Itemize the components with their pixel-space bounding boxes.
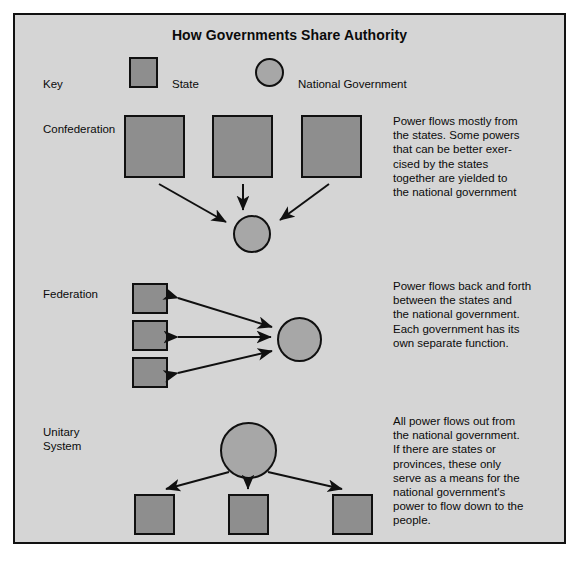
key-label: Key bbox=[43, 78, 63, 90]
key-national-label: National Government bbox=[298, 78, 407, 90]
diagram-stage: How Governments Share Authority Key Stat… bbox=[15, 15, 564, 542]
section-description-unitary-system: All power flows out from the national go… bbox=[393, 414, 569, 528]
arrow-confederation-1 bbox=[159, 184, 226, 222]
section-label-unitary-system: Unitary System bbox=[43, 425, 81, 453]
section-label-federation: Federation bbox=[43, 287, 98, 301]
federation-national-circle bbox=[277, 317, 322, 362]
arrow-federation-3 bbox=[178, 351, 272, 373]
unitary-national-circle bbox=[220, 422, 277, 479]
arrow-federation-1 bbox=[178, 298, 272, 327]
diagram-frame: How Governments Share Authority Key Stat… bbox=[13, 13, 566, 544]
section-label-confederation: Confederation bbox=[43, 122, 115, 136]
section-description-federation: Power flows back and forth between the s… bbox=[393, 279, 569, 350]
federation-state-box-3 bbox=[132, 357, 168, 388]
arrow-unitary-3 bbox=[268, 472, 342, 489]
confederation-state-box-2 bbox=[212, 115, 273, 178]
confederation-state-box-3 bbox=[301, 115, 362, 178]
unitary-state-box-3 bbox=[332, 494, 373, 535]
key-state-swatch bbox=[129, 57, 158, 88]
unitary-state-box-2 bbox=[228, 494, 269, 535]
key-national-swatch bbox=[255, 58, 284, 87]
arrow-unitary-1 bbox=[166, 472, 229, 489]
arrow-confederation-3 bbox=[280, 184, 329, 220]
page-title: How Governments Share Authority bbox=[15, 27, 564, 43]
key-state-label: State bbox=[172, 78, 199, 90]
confederation-state-box-1 bbox=[124, 115, 185, 178]
federation-state-box-1 bbox=[132, 283, 168, 314]
confederation-national-circle bbox=[233, 215, 271, 253]
unitary-state-box-1 bbox=[134, 494, 175, 535]
section-description-confederation: Power flows mostly from the states. Some… bbox=[393, 114, 569, 199]
federation-state-box-2 bbox=[132, 320, 168, 351]
